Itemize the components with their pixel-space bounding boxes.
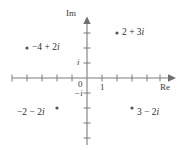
real-unit-label: 1 — [100, 83, 105, 92]
imaginary-negative-unit-label: −i — [74, 89, 83, 98]
point-marker-minus2-minus-2i — [55, 106, 58, 109]
point-label-imaginary-unit: i — [142, 27, 145, 37]
point-label-real-part: 3 − 2 — [137, 107, 157, 117]
real-axis-arrowhead — [168, 74, 176, 81]
point-label-minus4-plus-2i: −4 + 2i — [32, 43, 60, 53]
imaginary-axis-label: Im — [66, 9, 76, 18]
point-label-3-minus-2i: 3 − 2i — [137, 108, 159, 118]
point-marker-2-plus-3i — [115, 31, 118, 34]
point-label-imaginary-unit: i — [157, 107, 160, 117]
imaginary-axis-arrowhead — [83, 17, 90, 25]
real-axis-label: Re — [160, 83, 170, 92]
point-label-real-part: 2 + 3 — [122, 27, 142, 37]
point-label-imaginary-unit: i — [57, 42, 60, 52]
complex-plane-figure: Im Re 0 1 i −i 2 + 3i −4 + 2i −2 − 2i 3 … — [0, 0, 181, 150]
point-label-2-plus-3i: 2 + 3i — [122, 28, 144, 38]
imaginary-unit-label: i — [77, 58, 80, 67]
point-label-minus2-minus-2i: −2 − 2i — [17, 108, 45, 118]
point-label-imaginary-unit: i — [42, 107, 45, 117]
real-axis-group — [12, 74, 176, 81]
point-marker-3-minus-2i — [130, 106, 133, 109]
point-label-real-part: −2 − 2 — [17, 107, 42, 117]
point-label-real-part: −4 + 2 — [32, 42, 57, 52]
imaginary-axis-group — [83, 17, 90, 146]
axes-and-points-svg — [0, 0, 181, 150]
point-marker-minus4-plus-2i — [25, 46, 28, 49]
